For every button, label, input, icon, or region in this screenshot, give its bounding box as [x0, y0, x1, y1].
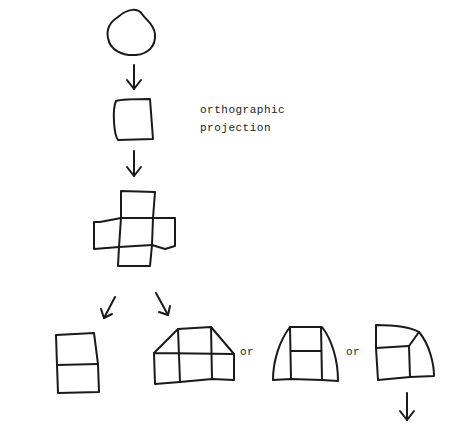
- cross-net-shape: [94, 191, 175, 266]
- trapezoid-grid-shape: [154, 327, 234, 384]
- diagram-canvas: [0, 0, 463, 423]
- arrow-down-icon: [400, 393, 414, 420]
- annotation-line-2: projection: [200, 122, 271, 134]
- or-connector-2: or: [346, 346, 360, 358]
- arrow-down-left-icon: [101, 297, 115, 318]
- arrow-down-right-icon: [156, 293, 170, 315]
- arrow-down-icon: [127, 151, 141, 176]
- or-connector-1: or: [240, 346, 254, 358]
- curved-corner-block-shape: [376, 325, 434, 380]
- arched-frame-shape: [273, 327, 338, 381]
- two-stacked-squares-shape: [56, 333, 99, 393]
- square-shape: [114, 99, 153, 140]
- arrow-down-icon: [127, 65, 141, 89]
- irregular-blob-shape: [107, 10, 155, 55]
- annotation-line-1: orthographic: [200, 104, 285, 116]
